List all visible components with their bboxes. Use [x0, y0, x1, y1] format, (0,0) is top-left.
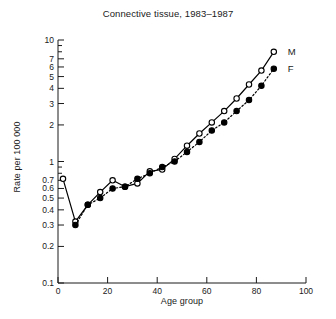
data-point-f — [184, 149, 189, 154]
data-point-f — [259, 83, 264, 88]
y-tick-label: 10 — [45, 35, 55, 45]
y-tick-label: 0.5 — [42, 193, 54, 203]
y-axis-ticks: 0.10.20.30.40.50.60.7123456710 — [42, 35, 64, 288]
y-tick-label: 0.1 — [42, 278, 54, 288]
legend-label-m: M — [288, 46, 296, 57]
data-point-f — [197, 139, 202, 144]
data-point-f — [122, 184, 127, 189]
x-tick-label: 80 — [252, 286, 262, 296]
x-axis-ticks: 020406080100 — [56, 277, 314, 296]
data-point-f — [160, 164, 165, 169]
data-point-m — [234, 96, 239, 101]
x-tick-label: 100 — [299, 286, 313, 296]
y-tick-label: 4 — [49, 83, 54, 93]
data-point-m — [98, 189, 103, 194]
data-point-m — [209, 120, 214, 125]
x-tick-label: 40 — [152, 286, 162, 296]
data-point-m — [110, 178, 115, 183]
data-point-f — [110, 186, 115, 191]
data-point-f — [209, 128, 214, 133]
y-tick-label: 5 — [49, 72, 54, 82]
data-point-f — [85, 202, 90, 207]
data-point-f — [222, 120, 227, 125]
data-point-m — [222, 108, 227, 113]
data-point-m — [259, 68, 264, 73]
data-point-m — [246, 82, 251, 87]
data-point-f — [135, 176, 140, 181]
data-series-group — [60, 49, 276, 228]
axes — [58, 40, 306, 283]
data-point-f — [147, 171, 152, 176]
series-line-m — [63, 52, 274, 222]
y-tick-label: 0.4 — [42, 205, 54, 215]
data-point-m — [197, 131, 202, 136]
data-point-f — [172, 159, 177, 164]
y-tick-label: 0.2 — [42, 241, 54, 251]
series-line-f — [75, 69, 273, 225]
data-point-f — [271, 66, 276, 71]
data-point-m — [184, 143, 189, 148]
legend: MF — [288, 46, 296, 74]
data-point-f — [73, 222, 78, 227]
data-point-f — [98, 195, 103, 200]
y-tick-label: 0.7 — [42, 175, 54, 185]
x-tick-label: 60 — [202, 286, 212, 296]
plot-area: 0.10.20.30.40.50.60.7123456710 020406080… — [0, 0, 336, 319]
x-tick-label: 0 — [56, 286, 61, 296]
data-point-m — [60, 176, 65, 181]
x-tick-label: 20 — [103, 286, 113, 296]
y-tick-label: 3 — [49, 99, 54, 109]
chart-figure: Connective tissue, 1983–1987 Rate per 10… — [0, 0, 336, 319]
data-point-f — [234, 108, 239, 113]
legend-label-f: F — [288, 63, 294, 74]
y-tick-label: 7 — [49, 54, 54, 64]
data-point-f — [246, 97, 251, 102]
y-tick-label: 0.3 — [42, 220, 54, 230]
data-point-m — [271, 49, 276, 54]
y-tick-label: 1 — [49, 157, 54, 167]
y-tick-label: 2 — [49, 120, 54, 130]
